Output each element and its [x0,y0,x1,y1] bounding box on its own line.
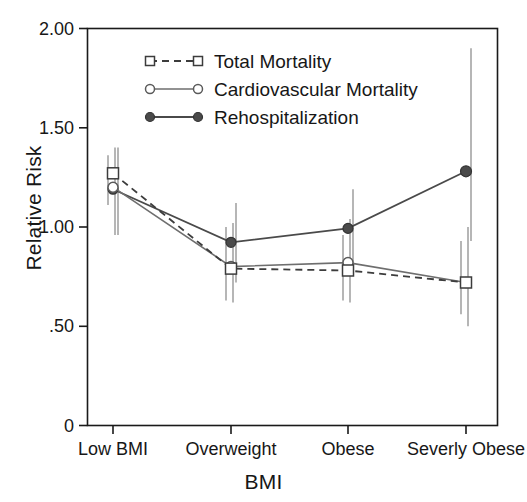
data-point [108,182,118,192]
error-bars-cardiovascular [115,147,468,326]
legend-marker-open-circle-solid [146,85,203,94]
legend-label: Rehospitalization [214,107,359,128]
data-point [108,168,119,179]
y-axis-ticks [79,29,88,426]
y-tick-label-0_50: .50 [49,316,74,336]
x-axis-title: BMI [0,470,527,494]
series-total-mortality [108,168,472,288]
data-point [343,265,354,276]
legend-entry-rehospitalization: Rehospitalization [146,107,359,128]
y-tick-label-2_00: 2.00 [39,19,74,39]
y-axis-title: Relative Risk [22,118,46,298]
series-line-rehospitalization [113,171,466,242]
legend-entry-cardiovascular-mortality: Cardiovascular Mortality [146,79,419,100]
x-axis-tick-labels: Low BMI Overweight Obese Severly Obese [78,439,525,459]
legend-marker-open-square-dashed [146,57,203,66]
legend-label: Total Mortality [214,51,332,72]
legend-entry-total-mortality: Total Mortality [146,51,332,72]
data-point [461,166,472,177]
y-tick-label-0: 0 [64,416,74,436]
chart-legend: Total Mortality Cardiovascular Mortality [146,51,419,128]
x-tick-label-overweight: Overweight [185,439,276,459]
data-point [226,263,237,274]
relative-risk-line-chart: 2.00 1.50 1.00 .50 0 Low BMI Overweight … [0,0,527,502]
x-tick-label-severly-obese: Severly Obese [407,439,525,459]
legend-label: Cardiovascular Mortality [214,79,418,100]
series-rehospitalization [108,166,472,248]
data-point [343,223,353,233]
error-bars-total-mortality [108,155,461,314]
x-tick-label-low-bmi: Low BMI [78,439,148,459]
chart-figure: 2.00 1.50 1.00 .50 0 Low BMI Overweight … [0,0,527,502]
data-point [226,237,236,247]
series-line-total-mortality [113,173,466,282]
legend-marker-filled-circle-solid [146,113,203,122]
x-axis-ticks [113,426,466,435]
data-point [461,277,472,288]
x-tick-label-obese: Obese [321,439,374,459]
